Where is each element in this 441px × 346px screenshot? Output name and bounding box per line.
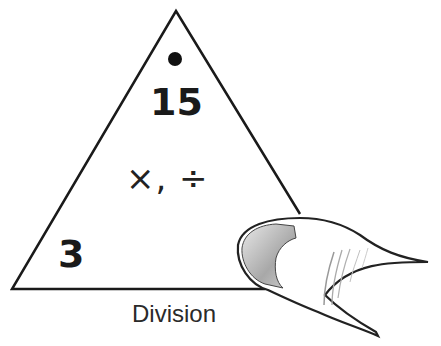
bottom-left-number: 3 [58, 232, 84, 276]
operations-label: ×, ÷ [126, 158, 209, 198]
top-dot-icon [168, 52, 182, 66]
caption: Division [132, 300, 216, 328]
top-number: 15 [150, 80, 203, 124]
fact-triangle-diagram [0, 0, 441, 346]
thumb-icon [238, 218, 428, 336]
